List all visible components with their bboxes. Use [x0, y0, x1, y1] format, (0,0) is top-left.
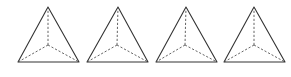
outer-edges [18, 7, 79, 62]
tetrahedron-2 [87, 7, 148, 62]
tetrahedron-3 [156, 7, 217, 62]
tetrahedra-figure [0, 0, 291, 77]
outer-edges [156, 7, 217, 62]
hidden-edge-to-apex [185, 7, 186, 45]
tetrahedron-4 [224, 7, 285, 62]
diagram-canvas [0, 0, 291, 77]
outer-edges [224, 7, 285, 62]
hidden-edge-to-apex [117, 7, 118, 45]
tetrahedron-1 [18, 7, 79, 62]
